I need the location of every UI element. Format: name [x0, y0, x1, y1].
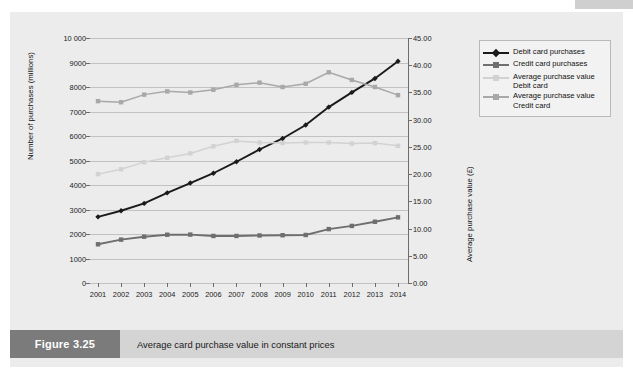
- data-point: [211, 234, 215, 238]
- y-axis-right-tick-mark: [408, 174, 412, 175]
- data-point: [188, 90, 192, 94]
- y-axis-right-tick-mark: [408, 201, 412, 202]
- x-axis-tick-mark: [167, 283, 168, 287]
- data-point: [188, 232, 192, 236]
- legend-item: Average purchase value Debit card: [483, 72, 607, 90]
- data-point: [350, 141, 354, 145]
- data-point: [280, 233, 284, 237]
- data-point: [280, 85, 284, 89]
- data-point: [165, 233, 169, 237]
- data-point: [396, 93, 400, 97]
- x-axis-tick-mark: [98, 283, 99, 287]
- x-axis-tick-mark: [375, 283, 376, 287]
- data-point: [257, 140, 261, 144]
- data-point: [211, 144, 215, 148]
- y-axis-right-tick-label: 5.00: [413, 251, 427, 260]
- y-axis-right-tick-label: 30.00: [413, 115, 432, 124]
- data-point: [96, 99, 100, 103]
- y-axis-left-tick-label: 7000: [70, 107, 86, 116]
- y-axis-right-tick-mark: [408, 65, 412, 66]
- data-point: [188, 180, 193, 185]
- series-credit-card-purchases: [96, 215, 400, 246]
- x-axis-tick-label: 2003: [136, 290, 152, 299]
- series-average-purchase-value-credit-card: [96, 70, 400, 104]
- y-axis-right-tick-label: 0.00: [413, 279, 427, 288]
- y-axis-right-tick-label: 15.00: [413, 197, 432, 206]
- y-axis-left-tick-label: 5000: [70, 156, 86, 165]
- data-point: [118, 208, 123, 213]
- y-axis-right-tick-label: 45.00: [413, 34, 432, 43]
- figure-panel: Number of purchases (millions) Average p…: [10, 12, 623, 367]
- data-point: [350, 224, 354, 228]
- x-axis-tick-label: 2004: [159, 290, 175, 299]
- y-axis-left-tick-label: 6000: [70, 132, 86, 141]
- x-axis-tick-mark: [329, 283, 330, 287]
- y-axis-right-tick-mark: [408, 92, 412, 93]
- x-axis-tick-mark: [306, 283, 307, 287]
- data-point: [119, 237, 123, 241]
- y-axis-right-tick-label: 40.00: [413, 61, 432, 70]
- x-axis-tick-mark: [283, 283, 284, 287]
- y-axis-left-tick-label: 8000: [70, 83, 86, 92]
- data-point: [327, 140, 331, 144]
- legend-item: Average purchase value Credit card: [483, 91, 607, 109]
- data-point: [188, 151, 192, 155]
- y-axis-right-tick-mark: [408, 147, 412, 148]
- y-axis-left-tick-label: 3000: [70, 205, 86, 214]
- data-point: [119, 100, 123, 104]
- x-axis-tick-mark: [352, 283, 353, 287]
- data-point: [211, 88, 215, 92]
- plot-canvas: 010002000300040005000600070008000900010 …: [90, 38, 408, 283]
- series-debit-card-purchases: [95, 59, 400, 220]
- x-axis-tick-mark: [121, 283, 122, 287]
- data-point: [303, 233, 307, 237]
- figure-caption-bar: Figure 3.25 Average card purchase value …: [10, 330, 623, 358]
- y-axis-right-tick-mark: [408, 229, 412, 230]
- data-point: [373, 85, 377, 89]
- x-axis-tick-mark: [260, 283, 261, 287]
- legend-item: Credit card purchases: [483, 59, 607, 70]
- data-point: [396, 215, 400, 219]
- chart-series: [90, 38, 408, 283]
- y-axis-left-tick-label: 9000: [70, 58, 86, 67]
- x-axis-tick-label: 2005: [182, 290, 198, 299]
- x-axis-tick-label: 2007: [228, 290, 244, 299]
- x-axis-tick-label: 2002: [113, 290, 129, 299]
- chart-legend: Debit card purchasesCredit card purchase…: [479, 40, 611, 117]
- data-point: [119, 167, 123, 171]
- data-point: [257, 80, 261, 84]
- x-axis-tick-label: 2010: [297, 290, 313, 299]
- y-axis-left-tick-label: 1000: [70, 254, 86, 263]
- gridline: [90, 283, 408, 284]
- data-point: [96, 172, 100, 176]
- x-axis-tick-label: 2001: [90, 290, 106, 299]
- series-average-purchase-value-debit-card: [96, 139, 400, 177]
- data-point: [142, 234, 146, 238]
- data-point: [257, 233, 261, 237]
- figure-number: Figure 3.25: [10, 330, 120, 358]
- y-axis-left-tick-label: 4000: [70, 181, 86, 190]
- data-point: [142, 92, 146, 96]
- data-point: [327, 227, 331, 231]
- y-axis-right-title: Average purchase value (£): [465, 166, 474, 262]
- data-point: [373, 141, 377, 145]
- figure-page: Number of purchases (millions) Average p…: [0, 0, 633, 384]
- data-point: [280, 141, 284, 145]
- data-point: [165, 89, 169, 93]
- data-point: [350, 78, 354, 82]
- x-axis-tick-mark: [398, 283, 399, 287]
- data-point: [303, 140, 307, 144]
- legend-swatch-icon: [483, 48, 509, 58]
- data-point: [234, 83, 238, 87]
- legend-swatch-icon: [483, 60, 509, 70]
- y-axis-right-tick-label: 35.00: [413, 88, 432, 97]
- y-axis-left-title: Number of purchases (millions): [26, 52, 35, 160]
- data-point: [95, 214, 100, 219]
- x-axis-tick-label: 2012: [344, 290, 360, 299]
- y-axis-right-tick-mark: [408, 38, 412, 39]
- y-axis-right-tick-label: 10.00: [413, 224, 432, 233]
- x-axis-tick-label: 2011: [321, 290, 337, 299]
- data-point: [327, 70, 331, 74]
- x-axis-tick-mark: [144, 283, 145, 287]
- legend-item-label: Average purchase value Debit card: [513, 72, 607, 90]
